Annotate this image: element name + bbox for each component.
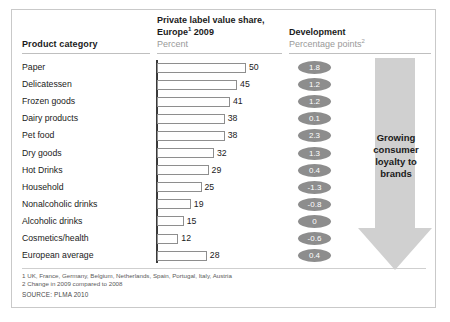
development-pill: 2.3: [298, 129, 331, 142]
value-bar-label: 41: [233, 96, 243, 106]
value-bar: [157, 131, 225, 141]
development-pill: -0.8: [298, 198, 331, 211]
row-category-label: Dairy products: [22, 113, 78, 123]
column-header-development: Development: [289, 27, 346, 37]
value-bar-label: 19: [194, 199, 204, 209]
row-category-label: Dry goods: [22, 148, 62, 158]
callout-line-4: brands: [380, 168, 412, 179]
callout-line-2: consumer: [373, 144, 418, 155]
development-pill: 0.4: [298, 249, 331, 262]
row-category-label: Nonalcoholic drinks: [22, 199, 97, 209]
value-bar: [157, 216, 184, 226]
development-pill: 1.2: [298, 95, 331, 108]
growth-callout-arrow: Growing consumer loyalty to brands: [353, 58, 437, 271]
header-rule-category: [22, 53, 150, 54]
column-header-product-category: Product category: [22, 39, 98, 49]
value-bar: [157, 114, 225, 124]
row-category-label: Paper: [22, 62, 45, 72]
value-bar-label: 12: [181, 233, 191, 243]
value-bar-label: 29: [212, 165, 222, 175]
value-bar-label: 28: [210, 250, 220, 260]
value-bar: [157, 182, 202, 192]
value-bar: [157, 251, 207, 261]
growth-callout-text: Growing consumer loyalty to brands: [365, 132, 427, 180]
development-unit: Percentage points2: [289, 39, 365, 49]
row-category-label: European average: [22, 250, 94, 260]
row-category-label: Pet food: [22, 130, 54, 140]
value-share-title-year: 2009: [191, 27, 214, 37]
value-share-title-line1: Private label value share,: [157, 15, 265, 25]
value-bar: [157, 63, 246, 73]
value-bar: [157, 199, 191, 209]
row-category-label: Alcoholic drinks: [22, 216, 82, 226]
footer-divider: [22, 268, 426, 269]
development-unit-text: Percentage points: [289, 39, 362, 49]
exhibit-frame: Product category Private label value sha…: [11, 9, 436, 308]
value-bar-label: 32: [217, 148, 227, 158]
value-bar-label: 38: [228, 130, 238, 140]
value-bar: [157, 80, 237, 90]
value-bar: [157, 97, 230, 107]
value-share-unit: Percent: [157, 39, 188, 49]
value-bar: [157, 165, 209, 175]
development-pill: 0.1: [298, 112, 331, 125]
footnote-1: 1 UK, France, Germany, Belgium, Netherla…: [22, 272, 232, 280]
value-bar: [157, 148, 214, 158]
source-line: SOURCE: PLMA 2010: [22, 291, 88, 298]
chart-header: Product category Private label value sha…: [12, 10, 435, 58]
development-pill: 1.8: [298, 61, 331, 74]
row-category-label: Hot Drinks: [22, 165, 63, 175]
footnote-2: 2 Change in 2009 compared to 2008: [22, 280, 232, 288]
header-rule-development: [289, 53, 431, 54]
callout-line-3: loyalty to: [375, 156, 417, 167]
development-pill: 0: [298, 215, 331, 228]
value-bar-label: 38: [228, 113, 238, 123]
value-bar: [157, 234, 178, 244]
column-header-value-share: Private label value share, Europe1 2009: [157, 15, 307, 38]
value-bar-label: 15: [187, 216, 197, 226]
row-category-label: Household: [22, 182, 64, 192]
header-rule-value-share: [157, 53, 282, 54]
row-category-label: Cosmetics/health: [22, 233, 89, 243]
footnotes: 1 UK, France, Germany, Belgium, Netherla…: [22, 272, 232, 289]
development-pill: 1.2: [298, 78, 331, 91]
development-pill: -0.6: [298, 232, 331, 245]
value-bar-label: 45: [240, 79, 250, 89]
development-pill: 0.4: [298, 164, 331, 177]
development-pill: 1.3: [298, 147, 331, 160]
callout-line-1: Growing: [377, 132, 416, 143]
row-category-label: Frozen goods: [22, 96, 75, 106]
row-category-label: Delicatessen: [22, 79, 72, 89]
footnote-marker-2: 2: [362, 38, 365, 44]
value-bar-label: 25: [205, 182, 215, 192]
value-share-title-line2: Europe: [157, 27, 188, 37]
development-pill: -1.3: [298, 181, 331, 194]
value-bar-label: 50: [249, 62, 259, 72]
